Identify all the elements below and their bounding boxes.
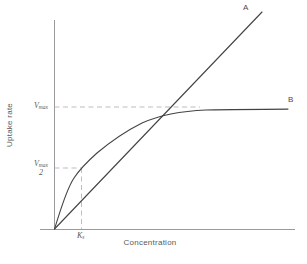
vmax-half-label-subscript: max bbox=[39, 162, 48, 168]
chart-figure: A B Vmax Vmax 2 Ks Concentration Uptake … bbox=[0, 0, 307, 264]
series-label-b: B bbox=[288, 96, 293, 104]
ks-axis-label: Ks bbox=[77, 232, 84, 240]
x-axis-title: Concentration bbox=[123, 239, 176, 247]
vmax-half-numerator: Vmax bbox=[34, 159, 48, 168]
vmax-axis-label: Vmax bbox=[34, 102, 48, 110]
vmax-label-subscript: max bbox=[39, 104, 48, 110]
plot-canvas bbox=[0, 0, 307, 264]
vmax-half-axis-label: Vmax 2 bbox=[34, 159, 48, 178]
y-axis-title: Uptake rate bbox=[6, 103, 14, 147]
series-curve-b bbox=[55, 109, 289, 229]
series-label-a: A bbox=[243, 4, 248, 12]
series-line-a bbox=[55, 12, 263, 229]
ks-label-subscript: s bbox=[82, 234, 84, 240]
vmax-half-denominator: 2 bbox=[34, 168, 48, 178]
